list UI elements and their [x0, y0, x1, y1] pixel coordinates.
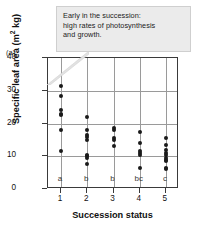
callout-line-3: and growth. [63, 30, 185, 40]
y-tick-label: 30 [0, 85, 16, 94]
x-tick-mark [139, 188, 140, 193]
x-axis-title: Succession status [47, 210, 178, 220]
callout-line-2: high rates of photosynthesis [63, 21, 185, 31]
significance-letter: a [52, 174, 68, 183]
data-point [85, 128, 89, 132]
data-point [112, 144, 116, 148]
y-tick-mark [42, 188, 47, 189]
callout-line-1: Early in the succession: [63, 11, 185, 21]
data-point [138, 153, 142, 157]
data-point [59, 149, 63, 153]
data-point [138, 141, 142, 145]
data-point [164, 143, 168, 147]
data-point [138, 166, 142, 170]
data-point [59, 94, 63, 98]
data-point [59, 128, 63, 132]
x-tick-mark [86, 188, 87, 193]
x-tick-label: 4 [132, 194, 146, 203]
significance-letter: c [157, 174, 173, 183]
x-tick-mark [60, 188, 61, 193]
data-point [85, 162, 89, 166]
significance-letter: bc [131, 174, 147, 183]
data-point [85, 138, 89, 142]
x-tick-label: 1 [53, 194, 67, 203]
gridline-horizontal [48, 156, 177, 157]
significance-letter: b [105, 174, 121, 183]
data-point [164, 167, 168, 171]
data-point [112, 128, 116, 132]
x-tick-label: 3 [106, 194, 120, 203]
data-point [85, 156, 89, 160]
y-tick-label: 10 [0, 150, 16, 159]
x-tick-label: 2 [79, 194, 93, 203]
figure-panel-a: Early in the succession: high rates of p… [0, 0, 199, 234]
x-tick-mark [165, 188, 166, 193]
data-point [85, 115, 89, 119]
x-tick-label: 5 [158, 194, 172, 203]
data-point [59, 113, 63, 117]
data-point [164, 136, 168, 140]
significance-letter: b [78, 174, 94, 183]
gridline-horizontal [48, 91, 177, 92]
data-point [164, 159, 168, 163]
data-point [138, 130, 142, 134]
y-tick-label: 40 [0, 52, 16, 61]
gridline-vertical [114, 58, 115, 187]
y-tick-label: 20 [0, 118, 16, 127]
data-point [112, 138, 116, 142]
x-tick-mark [113, 188, 114, 193]
y-tick-label: 0 [0, 183, 16, 192]
annotation-callout: Early in the succession: high rates of p… [56, 6, 191, 52]
gridline-horizontal [48, 124, 177, 125]
y-axis-title: Specific leaf area (m2 kg) [9, 2, 21, 136]
callout-tail-icon [47, 51, 89, 85]
